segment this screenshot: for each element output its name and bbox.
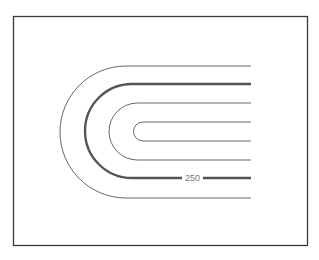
contour-line-third [109, 103, 251, 160]
map-frame [14, 17, 308, 246]
contour-elevation-label: 250 [185, 173, 200, 183]
contour-line-index [85, 84, 251, 178]
contour-line-inner [134, 122, 252, 141]
contour-diagram: 250 [0, 0, 319, 260]
